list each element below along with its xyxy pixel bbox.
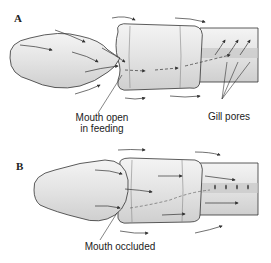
mouth-occluded-label: Mouth occluded xyxy=(70,241,170,252)
mouth-open-line2: in feeding xyxy=(58,123,146,134)
panel-b-illustration xyxy=(34,150,258,241)
mouth-open-line1: Mouth open xyxy=(58,112,146,123)
panel-label-b: B xyxy=(16,160,23,172)
panel-a-illustration xyxy=(10,17,258,113)
gill-pores-label: Gill pores xyxy=(196,111,262,122)
panel-label-a: A xyxy=(14,12,22,24)
mouth-open-label: Mouth open in feeding xyxy=(58,112,146,134)
